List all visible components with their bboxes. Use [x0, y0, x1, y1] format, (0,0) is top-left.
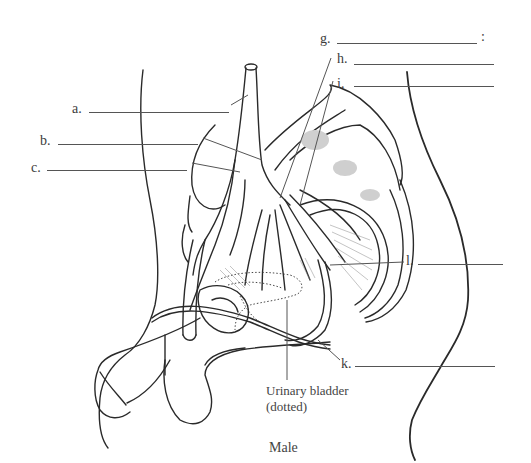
answer-blank-g[interactable] — [337, 43, 477, 44]
coccygeus-curve — [300, 200, 388, 312]
answer-blank-k[interactable] — [355, 366, 495, 367]
answer-blank-b[interactable] — [58, 144, 198, 145]
label-g: g. — [320, 32, 331, 46]
label-l: l. — [406, 254, 413, 268]
answer-blank-l[interactable] — [418, 264, 503, 265]
callout-urinary-bladder: Urinary bladder — [266, 383, 349, 399]
label-g-colon: : — [481, 30, 485, 44]
answer-blank-c[interactable] — [47, 170, 187, 171]
answer-blank-h[interactable] — [354, 64, 494, 65]
diagram-title: Male — [269, 440, 298, 456]
label-i: i. — [337, 77, 344, 91]
label-b: b. — [40, 134, 51, 148]
penis-outline — [95, 318, 200, 418]
label-h: h. — [337, 52, 348, 66]
label-k: k. — [341, 357, 352, 371]
urethral-bulb — [198, 286, 248, 333]
callout-dotted: (dotted) — [266, 399, 307, 415]
answer-blank-a[interactable] — [89, 112, 229, 113]
label-c: c. — [31, 161, 41, 175]
body-outline-left — [99, 70, 157, 448]
body-outline-right — [407, 72, 468, 460]
label-a: a. — [72, 102, 82, 116]
answer-blank-i[interactable] — [354, 86, 494, 87]
